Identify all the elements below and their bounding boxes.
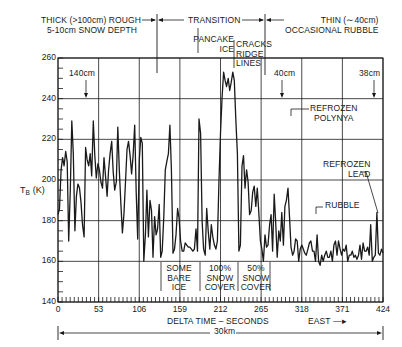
- distance-label: 30km: [213, 327, 236, 337]
- x-tick-label: 106: [127, 304, 151, 314]
- y-tick-label: 180: [36, 215, 56, 225]
- x-tick-label: 318: [290, 304, 314, 314]
- y-tick-label: 240: [36, 93, 56, 103]
- x-tick-label: 212: [209, 304, 233, 314]
- east-label: EAST —▸: [308, 317, 347, 327]
- x-tick-label: 265: [249, 304, 273, 314]
- some-bare-ice-label: SOME BARE ICE: [164, 264, 194, 293]
- refrozen-lead-label: REFROZEN LEAD: [323, 160, 371, 179]
- x-tick-label: 159: [168, 304, 192, 314]
- y-tick-label: 220: [36, 133, 56, 143]
- region-thin-label: THIN (∼40cm) OCCASIONAL RUBBLE: [285, 16, 379, 35]
- thickness-38cm-label: 38cm: [359, 69, 380, 79]
- rubble-label: RUBBLE: [325, 201, 360, 211]
- x-tick-label: 53: [87, 304, 111, 314]
- x-tick-label: 0: [46, 304, 70, 314]
- region-thick-label: THICK (>100cm) ROUGH 5-10cm SNOW DEPTH: [41, 16, 141, 35]
- pancake-ice-label: PANCAKE ICE: [190, 35, 234, 54]
- x-tick-label: 424: [371, 304, 395, 314]
- cracks-ridge-lines-label: CRACKS RIDGE LINES: [236, 40, 272, 69]
- thickness-140cm-label: 140cm: [69, 69, 95, 79]
- snow-cover-50-label: 50% SNOW COVER: [240, 264, 272, 293]
- y-tick-label: 160: [36, 255, 56, 265]
- thickness-40cm-label: 40cm: [274, 69, 295, 79]
- snow-cover-100-label: 100% SNOW COVER: [204, 264, 236, 293]
- y-tick-label: 200: [36, 174, 56, 184]
- y-axis-label: TB (K): [20, 186, 45, 196]
- x-tick-label: 371: [330, 304, 354, 314]
- y-tick-label: 260: [36, 52, 56, 62]
- refrozen-polynya-label: REFROZEN POLYNYA: [310, 104, 358, 123]
- region-transition-label: TRANSITION: [186, 16, 242, 26]
